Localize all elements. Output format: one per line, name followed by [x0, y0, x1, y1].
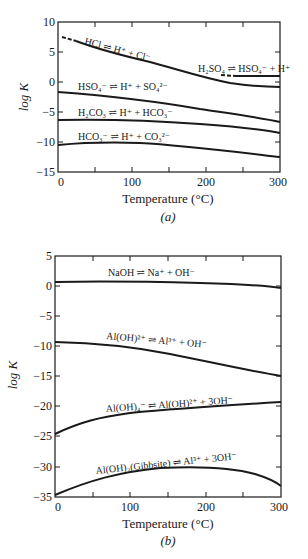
x-tick-a-200: 200 — [197, 175, 215, 189]
x-tick-b-0: 0 — [55, 500, 61, 514]
label-aloh2: Al(OH)²⁺ ⇌ Al³⁺ + OH⁻ — [106, 330, 208, 351]
caption-a: (a) — [160, 209, 175, 224]
panel-a: 10 5 0 −5 −10 −15 0 100 200 300 Temperat… — [16, 15, 290, 224]
label-h2co3: H₂CO₃ ⇌ H⁺ + HCO₃⁻ — [78, 107, 172, 118]
label-hco3: HCO₃⁻ ⇌ H⁺ + CO₃²⁻ — [78, 131, 170, 142]
x-tick-a-100: 100 — [123, 175, 141, 189]
curve-naoh — [55, 282, 281, 288]
y-axis-title-b: log K — [5, 359, 20, 389]
y-tick-b-neg35: −35 — [33, 490, 52, 504]
y-tick-b-neg15: −15 — [33, 369, 52, 383]
y-tick-a-neg5: −5 — [42, 105, 55, 119]
y-tick-a-10: 10 — [43, 15, 55, 29]
caption-b: (b) — [160, 533, 175, 548]
y-tick-a-0: 0 — [49, 75, 55, 89]
figure: 10 5 0 −5 −10 −15 0 100 200 300 Temperat… — [0, 0, 308, 559]
y-tick-b-5: 5 — [46, 249, 52, 263]
y-axis-title-a: log K — [16, 81, 31, 111]
label-hcl: HCl ⇌ H⁺ + Cl⁻ — [83, 35, 151, 63]
curve-h2so4-dashed — [221, 75, 236, 76]
curve-hcl-dashed — [62, 37, 76, 41]
label-gibbsite: Al(OH)₃(Gibbsite) ⇌ Al³⁺ + 3OH⁻ — [95, 450, 237, 477]
curve-gibbsite — [55, 467, 281, 495]
x-tick-a-0: 0 — [58, 175, 64, 189]
curve-aloh2 — [55, 342, 281, 376]
y-tick-b-0: 0 — [46, 279, 52, 293]
x-tick-b-100: 100 — [121, 500, 139, 514]
x-tick-b-200: 200 — [197, 500, 215, 514]
y-tick-b-neg10: −10 — [33, 339, 52, 353]
y-tick-a-5: 5 — [49, 45, 55, 59]
y-tick-b-neg30: −30 — [33, 460, 52, 474]
x-axis-title-a: Temperature (°C) — [122, 191, 213, 206]
label-hso4: HSO₄⁻ ⇌ H⁺ + SO₄²⁻ — [78, 81, 168, 92]
y-tick-b-neg5: −5 — [39, 309, 52, 323]
y-tick-b-neg25: −25 — [33, 429, 52, 443]
label-aloh4: Al(OH)₄⁻ ⇌ Al(OH)²⁺ + 3OH⁻ — [105, 394, 233, 415]
curve-hco3 — [58, 142, 280, 157]
x-axis-title-b: Temperature (°C) — [122, 516, 213, 531]
label-h2so4: H₂SO₄ ⇌ HSO₄⁻ + H⁺ — [198, 63, 290, 74]
x-tick-a-300: 300 — [269, 175, 287, 189]
panel-b: 5 0 −5 −10 −15 −20 −25 −30 −35 0 100 200… — [5, 249, 288, 548]
label-naoh: NaOH ⇌ Na⁺ + OH⁻ — [108, 267, 195, 278]
y-tick-a-neg10: −10 — [36, 135, 55, 149]
y-tick-b-neg20: −20 — [33, 399, 52, 413]
x-tick-b-300: 300 — [270, 500, 288, 514]
y-tick-a-neg15: −15 — [36, 165, 55, 179]
